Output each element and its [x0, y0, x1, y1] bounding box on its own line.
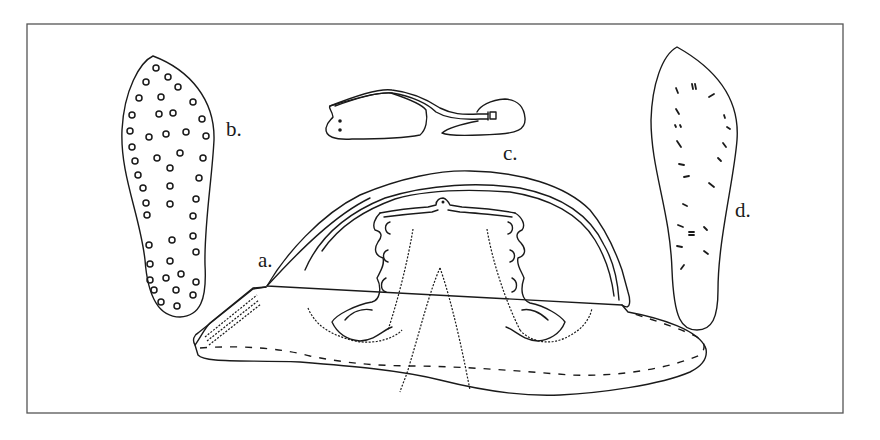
part-a-upper	[194, 171, 707, 395]
figure: b. c. d.	[0, 0, 880, 440]
label-b: b.	[226, 117, 242, 141]
label-a: a.	[258, 248, 273, 272]
label-d: d.	[735, 198, 751, 222]
part-d-sole	[651, 47, 737, 330]
part-c-heel	[326, 90, 525, 139]
part-b-sole	[122, 56, 214, 317]
label-c: c.	[503, 141, 518, 165]
illustration: b. c. d.	[0, 0, 880, 440]
